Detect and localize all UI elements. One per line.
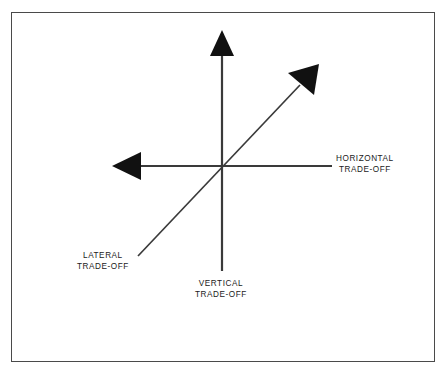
horizontal-axis-arrowhead (112, 152, 141, 180)
diagram-page: HORIZONTAL TRADE-OFF LATERAL TRADE-OFF V… (0, 0, 446, 373)
horizontal-axis-label-line2: TRADE-OFF (336, 165, 394, 176)
lateral-axis-label-line2: TRADE-OFF (77, 262, 129, 273)
vertical-axis-label-line2: TRADE-OFF (195, 290, 247, 301)
horizontal-axis-label: HORIZONTAL TRADE-OFF (336, 154, 394, 175)
vertical-axis-label: VERTICAL TRADE-OFF (195, 279, 247, 300)
vertical-axis-label-line1: VERTICAL (199, 279, 243, 288)
lateral-axis-label-line1: LATERAL (83, 251, 123, 260)
horizontal-axis-label-line1: HORIZONTAL (336, 154, 394, 163)
lateral-axis-line (138, 85, 300, 256)
vertical-axis-arrowhead (210, 30, 234, 56)
axes-diagram (0, 0, 446, 373)
lateral-axis-label: LATERAL TRADE-OFF (77, 251, 129, 272)
lateral-axis-arrowhead (288, 64, 319, 95)
